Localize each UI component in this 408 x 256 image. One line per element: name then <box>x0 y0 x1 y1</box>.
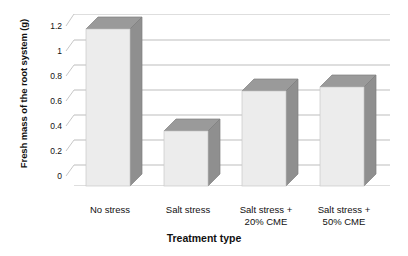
bar-3d-shape <box>86 14 144 186</box>
x-tick-label-salt-stress: Salt stress <box>148 204 228 216</box>
y-tick-label: 0 <box>28 172 62 181</box>
bar-no-stress <box>86 29 130 186</box>
y-tick-label: 1 <box>28 47 62 56</box>
y-tick-label: 0.4 <box>28 122 62 131</box>
bar-salt-stress-50-cme <box>320 87 364 186</box>
x-tick-label-50-cme: Salt stress + 50% CME <box>304 204 384 227</box>
y-tick-label: 0.2 <box>28 147 62 156</box>
bar-chart: Fresh mass of the root system (g) 1.2 1 … <box>0 0 408 256</box>
y-tick-label: 0.6 <box>28 97 62 106</box>
bar-3d-shape <box>320 14 378 186</box>
x-tick-label-no-stress: No stress <box>70 204 150 216</box>
plot-area: No stress Salt stress Salt stress + 20% … <box>74 14 390 186</box>
bar-salt-stress-20-cme <box>242 91 286 186</box>
y-axis-title: Fresh mass of the root system (g) <box>18 0 29 189</box>
x-tick-label-20-cme: Salt stress + 20% CME <box>226 204 306 227</box>
bar-3d-shape <box>164 14 222 186</box>
bar-3d-shape <box>242 14 300 186</box>
x-axis-title: Treatment type <box>0 232 408 244</box>
y-axis-tick-labels: 1.2 1 0.8 0.6 0.4 0.2 0 <box>28 0 62 256</box>
bar-salt-stress <box>164 131 208 186</box>
y-tick-label: 1.2 <box>28 22 62 31</box>
y-tick-label: 0.8 <box>28 72 62 81</box>
